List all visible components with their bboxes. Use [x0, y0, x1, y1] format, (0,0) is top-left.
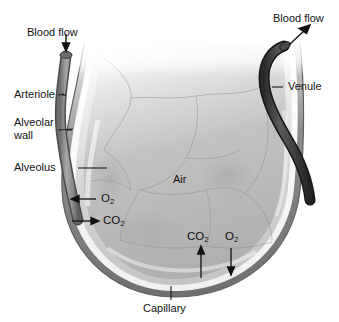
- interior-shading-blob-1: [200, 154, 256, 198]
- carbon-dioxide-left-text: CO: [103, 214, 120, 226]
- carbon-dioxide-right-subscript: 2: [204, 235, 208, 244]
- alveolus-body: [60, 30, 310, 297]
- alveolus-diagram: Blood flow Blood flow Arteriole Alveolar…: [0, 0, 339, 322]
- carbon-dioxide-label-left: CO2: [103, 214, 125, 226]
- blood-flow-out-label: Blood flow: [273, 12, 324, 24]
- alveolar-wall-label-line2: wall: [14, 129, 33, 141]
- arteriole-label: Arteriole: [14, 88, 55, 100]
- blood-flow-in-label: Blood flow: [27, 26, 78, 38]
- oxygen-left-subscript: 2: [110, 197, 114, 206]
- oxygen-label-right: O2: [225, 230, 238, 242]
- oxygen-left-text: O: [101, 192, 110, 204]
- oxygen-right-subscript: 2: [234, 235, 238, 244]
- oxygen-right-text: O: [225, 230, 234, 242]
- oxygen-label-left: O2: [101, 192, 114, 204]
- alveolus-label: Alveolus: [14, 161, 56, 173]
- venule-label: Venule: [288, 80, 322, 92]
- carbon-dioxide-label-right: CO2: [187, 230, 209, 242]
- carbon-dioxide-left-subscript: 2: [120, 219, 124, 228]
- capillary-label: Capillary: [143, 302, 186, 314]
- interior-shading-blob-2: [116, 210, 184, 250]
- alveolar-wall-label: Alveolar wall: [14, 116, 66, 141]
- air-label: Air: [173, 173, 186, 185]
- alveolar-wall-label-line1: Alveolar: [14, 116, 54, 128]
- carbon-dioxide-right-text: CO: [187, 230, 204, 242]
